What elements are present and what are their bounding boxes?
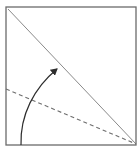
origami-diagram (0, 0, 137, 155)
